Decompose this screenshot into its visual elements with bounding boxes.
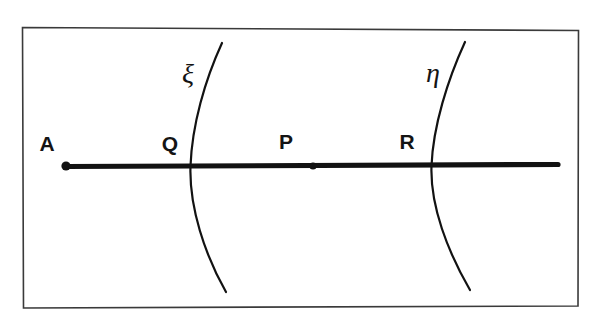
curve-label-xi: ξ bbox=[182, 58, 194, 89]
point-label-a: A bbox=[39, 132, 54, 155]
point-dot-a bbox=[61, 161, 70, 170]
diagram-canvas: A Q P R ξ η bbox=[0, 0, 598, 321]
point-label-r: R bbox=[399, 130, 414, 153]
figure-container: A Q P R ξ η bbox=[0, 0, 598, 321]
point-label-q: Q bbox=[162, 132, 178, 155]
point-dot-p bbox=[309, 162, 316, 169]
point-label-p: P bbox=[279, 130, 293, 153]
curve-label-eta: η bbox=[426, 57, 440, 88]
